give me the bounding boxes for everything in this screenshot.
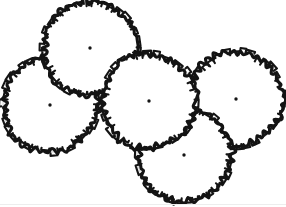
canopy-outline-layer [0, 0, 286, 204]
center-point-tree-right [234, 97, 237, 100]
center-point-tree-left [48, 103, 51, 106]
center-point-tree-bottom [182, 153, 185, 156]
tree-canopy-plan-canvas [0, 0, 286, 207]
plan-drawing [0, 0, 286, 207]
center-point-tree-middle [147, 99, 150, 102]
center-point-tree-top [88, 46, 91, 49]
